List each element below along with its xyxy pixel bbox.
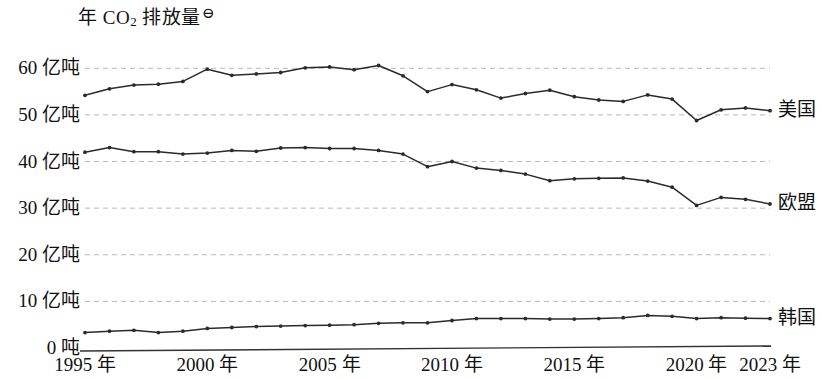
data-point [621, 316, 625, 320]
data-point [744, 197, 748, 201]
series-group [83, 64, 772, 335]
data-point [646, 314, 650, 318]
data-point [450, 83, 454, 87]
series-label-韩国: 韩国 [778, 308, 816, 327]
data-point [597, 317, 601, 321]
data-point [426, 90, 430, 94]
data-point [768, 317, 772, 321]
y-axis: 0 吨10 亿吨20 亿吨30 亿吨40 亿吨50 亿吨60 亿吨 [0, 0, 80, 379]
data-point [621, 100, 625, 104]
data-point [352, 323, 356, 327]
data-point [328, 323, 332, 327]
data-point [695, 119, 699, 123]
data-point [548, 179, 552, 183]
data-point [426, 321, 430, 325]
data-point [254, 72, 258, 76]
chart-title-tail: 排放量 [137, 7, 201, 28]
data-point [524, 92, 528, 96]
data-point [426, 165, 430, 169]
data-point [475, 166, 479, 170]
data-point [475, 88, 479, 92]
data-point [548, 88, 552, 92]
data-point [401, 321, 405, 325]
data-point [450, 160, 454, 164]
data-point [181, 152, 185, 156]
data-point [83, 93, 87, 97]
data-point [670, 185, 674, 189]
data-point [279, 324, 283, 328]
data-point [83, 331, 87, 335]
x-tick-label: 2023 年 [739, 355, 801, 374]
data-point [768, 109, 772, 113]
data-point [744, 106, 748, 110]
plot-svg [85, 45, 770, 348]
data-point [548, 317, 552, 321]
data-point [401, 74, 405, 78]
series-label-美国: 美国 [778, 100, 816, 119]
data-point [132, 83, 136, 87]
data-point [328, 147, 332, 151]
data-point [303, 324, 307, 328]
data-point [377, 64, 381, 68]
y-tick-label: 50 亿吨 [2, 105, 80, 124]
data-point [279, 146, 283, 150]
data-point [670, 314, 674, 318]
data-point [157, 82, 161, 86]
data-point [597, 98, 601, 102]
data-point [230, 326, 234, 330]
series-0 [83, 64, 772, 123]
data-point [254, 325, 258, 329]
data-point [157, 331, 161, 335]
data-point [352, 68, 356, 72]
data-point [670, 97, 674, 101]
data-point [205, 67, 209, 71]
data-point [254, 149, 258, 153]
x-tick-label: 2010 年 [421, 355, 483, 374]
gridlines [80, 68, 771, 351]
data-point [108, 87, 112, 91]
plot-area [85, 45, 770, 348]
data-point [230, 73, 234, 77]
data-point [744, 316, 748, 320]
x-axis-line [80, 346, 771, 351]
data-point [83, 150, 87, 154]
data-point [768, 202, 772, 206]
data-point [132, 150, 136, 154]
data-point [499, 96, 503, 100]
data-point [328, 65, 332, 69]
data-point [719, 108, 723, 112]
data-point [230, 149, 234, 153]
data-point [377, 149, 381, 153]
data-point [524, 172, 528, 176]
data-point [132, 328, 136, 332]
y-tick-label: 60 亿吨 [2, 58, 80, 77]
chart-title-main: 年 CO [78, 7, 130, 28]
series-1 [83, 146, 772, 208]
x-tick-label: 2020 年 [666, 355, 728, 374]
data-point [621, 176, 625, 180]
data-point [695, 317, 699, 321]
series-label-欧盟: 欧盟 [778, 193, 816, 212]
data-point [572, 317, 576, 321]
data-point [279, 71, 283, 75]
data-point [181, 329, 185, 333]
x-tick-label: 1995 年 [54, 355, 116, 374]
chart-title: 年 CO2 排放量⊖ [78, 2, 215, 30]
data-point [303, 146, 307, 150]
x-tick-label: 2000 年 [176, 355, 238, 374]
data-point [646, 179, 650, 183]
data-point [401, 152, 405, 156]
x-tick-label: 2015 年 [543, 355, 605, 374]
footnote-mark-icon: ⊖ [202, 5, 215, 21]
data-point [499, 169, 503, 173]
series-2 [83, 314, 772, 335]
data-point [181, 80, 185, 84]
data-point [205, 151, 209, 155]
y-tick-label: 30 亿吨 [2, 198, 80, 217]
data-point [597, 176, 601, 180]
data-point [524, 317, 528, 321]
y-tick-label: 20 亿吨 [2, 245, 80, 264]
data-point [499, 317, 503, 321]
y-tick-label: 10 亿吨 [2, 291, 80, 310]
data-point [572, 95, 576, 99]
